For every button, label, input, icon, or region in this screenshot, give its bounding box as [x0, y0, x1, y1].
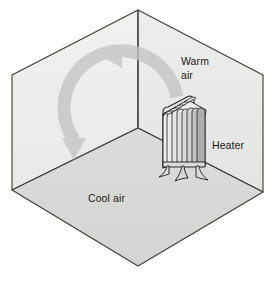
label-warm-air-line1: Warm: [181, 55, 209, 67]
convection-diagram: Warm air Heater Cool air: [0, 0, 275, 283]
radiator-fin: [197, 108, 205, 164]
label-warm-air-line2: air: [181, 69, 193, 81]
room-scene: Warm air Heater Cool air: [0, 0, 275, 283]
radiator-fins: [167, 108, 205, 164]
label-heater: Heater: [212, 139, 245, 151]
label-cool-air: Cool air: [88, 192, 125, 204]
